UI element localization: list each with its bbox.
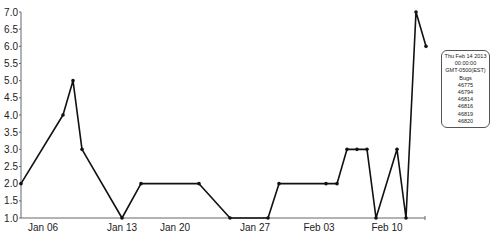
data-point[interactable] [424, 45, 428, 49]
tooltip-line: Thu Feb 14 2013 [443, 53, 488, 60]
data-point[interactable] [277, 182, 281, 186]
data-point[interactable] [197, 182, 201, 186]
y-tick-label: 2.5 [4, 161, 18, 172]
data-point[interactable] [71, 79, 75, 83]
x-tick-label: Jan 13 [107, 222, 137, 233]
y-axis: 1.01.52.02.53.03.54.04.55.05.56.06.57.0 [4, 7, 21, 224]
y-tick-label: 1.0 [4, 213, 18, 224]
data-point[interactable] [345, 148, 349, 152]
tooltip-line: 46794 [443, 89, 488, 96]
data-point[interactable] [404, 216, 408, 220]
y-tick-label: 6.5 [4, 24, 18, 35]
x-axis: Jan 06Jan 13Jan 20Jan 27Feb 03Feb 10 [21, 216, 425, 233]
y-tick-label: 7.0 [4, 7, 18, 18]
data-point[interactable] [335, 182, 339, 186]
data-point[interactable] [139, 182, 143, 186]
tooltip-line: 46775 [443, 82, 488, 89]
y-tick-label: 2.0 [4, 178, 18, 189]
tooltip-line: 46816 [443, 103, 488, 110]
data-point[interactable] [266, 216, 270, 220]
x-tick-label: Feb 10 [371, 222, 403, 233]
y-tick-label: 5.5 [4, 58, 18, 69]
data-point[interactable] [61, 113, 65, 117]
y-tick-label: 4.5 [4, 92, 18, 103]
tooltip-line: GMT-0500(EST) [443, 67, 488, 74]
data-point[interactable] [355, 148, 359, 152]
tooltip-line: 46819 [443, 111, 488, 118]
y-tick-label: 4.0 [4, 110, 18, 121]
data-point[interactable] [374, 216, 378, 220]
y-tick-label: 5.0 [4, 75, 18, 86]
data-point[interactable] [414, 10, 418, 14]
x-tick-label: Feb 03 [303, 222, 335, 233]
y-tick-label: 3.5 [4, 127, 18, 138]
data-point[interactable] [324, 182, 328, 186]
tooltip-line: 00:00:00 [443, 60, 488, 67]
data-point[interactable] [395, 148, 399, 152]
data-point[interactable] [120, 216, 124, 220]
data-tooltip: Thu Feb 14 2013 00:00:00 GMT-0500(EST) B… [441, 50, 490, 128]
x-tick-label: Jan 20 [160, 222, 190, 233]
data-point[interactable] [365, 148, 369, 152]
data-point[interactable] [19, 182, 23, 186]
tooltip-line: Bugs [443, 75, 488, 82]
y-tick-label: 3.0 [4, 144, 18, 155]
x-tick-label: Jan 06 [28, 222, 58, 233]
y-tick-label: 6.0 [4, 41, 18, 52]
data-point[interactable] [228, 216, 232, 220]
series-bugs [19, 10, 428, 220]
tooltip-line: 46820 [443, 118, 488, 125]
x-tick-label: Jan 27 [240, 222, 270, 233]
tooltip-line: 46814 [443, 96, 488, 103]
data-point[interactable] [80, 148, 84, 152]
y-tick-label: 1.5 [4, 195, 18, 206]
